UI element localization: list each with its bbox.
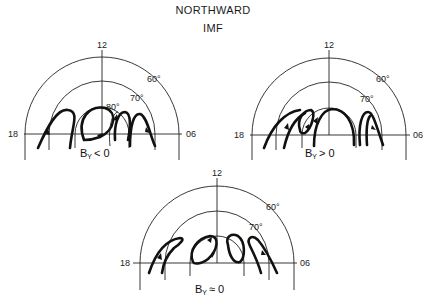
convection-cell-central: [314, 109, 354, 146]
panel-by-zero: 12 18 06 60° 70° BY≈ 0: [120, 168, 310, 296]
lat-label-60: 60°: [376, 74, 390, 84]
lat-label-70: 70°: [360, 94, 374, 104]
convection-cell-dusk-outer: [38, 110, 74, 148]
mlt-label-18: 18: [120, 258, 130, 268]
lat-label-60: 60°: [266, 202, 280, 212]
mlt-label-12: 12: [212, 168, 222, 178]
convection-cell-dawn-outer: [249, 237, 277, 273]
flow-arrow: [284, 123, 289, 130]
mlt-label-18: 18: [8, 129, 18, 139]
mlt-label-12: 12: [97, 40, 107, 50]
convection-cell-dawn-outer: [130, 114, 155, 146]
panel-caption-by-positive: BY> 0: [305, 147, 335, 160]
panel-caption-by-zero: BY≈ 0: [195, 283, 224, 296]
mlt-label-12: 12: [324, 40, 334, 50]
panel-by-positive: 12 18 06 60° 70° BY> 0: [234, 40, 423, 160]
convection-cell-dusk-inner: [192, 236, 217, 264]
mlt-label-06: 06: [413, 130, 423, 140]
lat-label-70: 70°: [130, 93, 144, 103]
panel-caption-by-negative: BY< 0: [80, 147, 110, 160]
convection-cell-dusk-outer: [264, 110, 300, 148]
lat-label-60: 60°: [147, 74, 161, 84]
mlt-label-06: 06: [300, 258, 310, 268]
flow-arrow: [305, 124, 309, 130]
mlt-label-06: 06: [186, 129, 196, 139]
convection-diagram: 12 18 06 60° 70° 80° BY< 0 12 18 06 60° …: [0, 0, 426, 301]
lat-label-70: 70°: [249, 222, 263, 232]
mlt-label-18: 18: [234, 130, 244, 140]
panel-by-negative: 12 18 06 60° 70° 80° BY< 0: [8, 40, 196, 160]
convection-cell-dawn-outer: [367, 116, 370, 145]
